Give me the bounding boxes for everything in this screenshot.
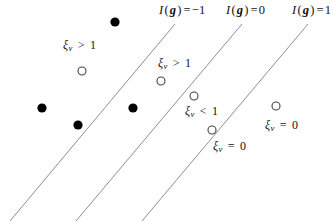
open-point-4 bbox=[208, 126, 216, 134]
slack-label-2-value: 1 bbox=[185, 56, 191, 70]
slack-label-2: ξν > 1 bbox=[158, 56, 191, 71]
diagram-vector-layer bbox=[0, 0, 333, 221]
open-points-group bbox=[78, 67, 280, 134]
slack-label-4-value: 0 bbox=[240, 139, 246, 153]
label-decision-zero: I(g)=0 bbox=[226, 3, 265, 18]
slack-label-4: ξν = 0 bbox=[213, 139, 246, 154]
filled-point-1 bbox=[110, 17, 119, 26]
boundary-lines-group bbox=[10, 24, 308, 221]
line-margin-minus-one bbox=[10, 24, 175, 221]
open-point-2 bbox=[157, 77, 165, 85]
open-point-5 bbox=[272, 102, 280, 110]
label-margin-plus-one-value: 1 bbox=[325, 3, 331, 17]
label-decision-zero-value: 0 bbox=[259, 3, 265, 17]
slack-label-3-subscript: ν bbox=[190, 109, 194, 119]
label-margin-minus-one-value: −1 bbox=[192, 3, 206, 17]
open-point-1 bbox=[78, 67, 86, 75]
slack-label-4-relation: = bbox=[228, 139, 235, 153]
slack-label-3-relation: < bbox=[200, 104, 207, 118]
slack-label-1: ξν > 1 bbox=[63, 38, 96, 53]
slack-label-5-relation: = bbox=[280, 118, 287, 132]
slack-label-5-value: 0 bbox=[292, 118, 298, 132]
line-decision-zero bbox=[76, 24, 242, 221]
filled-point-3 bbox=[73, 120, 82, 129]
slack-label-1-value: 1 bbox=[90, 38, 96, 52]
filled-points-group bbox=[37, 17, 137, 129]
open-point-3 bbox=[190, 92, 198, 100]
slack-label-2-relation: > bbox=[173, 56, 180, 70]
slack-label-2-subscript: ν bbox=[163, 61, 167, 71]
figure-canvas: I(g)=−1 I(g)=0 I(g)=1 ξν > 1 ξν > 1 ξν <… bbox=[0, 0, 333, 221]
slack-label-3: ξν < 1 bbox=[185, 104, 218, 119]
filled-point-4 bbox=[128, 103, 137, 112]
filled-point-2 bbox=[37, 103, 46, 112]
slack-label-5: ξν = 0 bbox=[265, 118, 298, 133]
slack-label-3-value: 1 bbox=[212, 104, 218, 118]
label-margin-minus-one: I(g)=−1 bbox=[159, 3, 206, 18]
slack-label-5-subscript: ν bbox=[270, 123, 274, 133]
slack-label-1-relation: > bbox=[78, 38, 85, 52]
slack-label-1-subscript: ν bbox=[68, 43, 72, 53]
label-margin-plus-one: I(g)=1 bbox=[292, 3, 331, 18]
slack-label-4-subscript: ν bbox=[218, 144, 222, 154]
